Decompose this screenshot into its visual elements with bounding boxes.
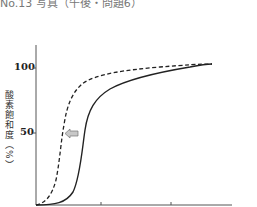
dashed-curve	[36, 64, 212, 205]
left-shift-arrow-icon	[65, 129, 78, 138]
chart-canvas	[0, 0, 257, 207]
